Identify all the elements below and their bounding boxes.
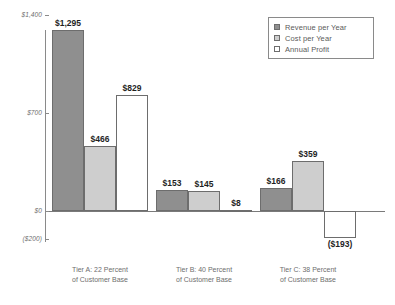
category-label-line: Tier C: 38 Percent	[253, 265, 363, 275]
y-tick-label: $1,400	[22, 11, 42, 18]
bar-profit-group-3	[324, 211, 356, 238]
bar-value-label: ($193)	[315, 239, 365, 249]
bar-revenue-group-2	[156, 190, 188, 211]
bar-revenue-group-3	[260, 188, 292, 211]
category-label-line: of Customer Base	[253, 275, 363, 285]
bar-revenue-group-1	[52, 30, 84, 211]
category-label-line: of Customer Base	[149, 275, 259, 285]
bar-value-label: $829	[107, 83, 157, 93]
legend-label-revenue: Revenue per Year	[285, 23, 347, 32]
category-label-line: Tier B: 40 Percent	[149, 265, 259, 275]
y-tick-label: ($200)	[23, 235, 42, 242]
bar-profit-group-1	[116, 95, 148, 211]
bar-value-label: $359	[283, 149, 333, 159]
bar-chart: $1,400$700$0($200) $1,295$466$829$153$14…	[0, 0, 395, 305]
legend-label-cost: Cost per Year	[285, 34, 332, 43]
category-label-1: Tier A: 22 Percentof Customer Base	[45, 265, 155, 285]
bar-cost-group-3	[292, 161, 324, 211]
legend-label-profit: Annual Profit	[285, 45, 329, 54]
chart-legend: Revenue per Year Cost per Year Annual Pr…	[268, 17, 374, 59]
legend-swatch-profit-icon	[274, 46, 280, 52]
bar-value-label: $145	[179, 179, 229, 189]
bar-value-label: $1,295	[43, 18, 93, 28]
category-label-2: Tier B: 40 Percentof Customer Base	[149, 265, 259, 285]
y-tick-label: $0	[35, 207, 42, 214]
category-label-3: Tier C: 38 Percentof Customer Base	[253, 265, 363, 285]
legend-item-revenue: Revenue per Year	[274, 22, 368, 32]
legend-item-cost: Cost per Year	[274, 33, 368, 43]
legend-swatch-revenue-icon	[274, 24, 280, 30]
category-label-line: Tier A: 22 Percent	[45, 265, 155, 275]
bar-value-label: $8	[211, 198, 261, 208]
legend-swatch-cost-icon	[274, 35, 280, 41]
y-tick-label: $700	[27, 109, 42, 116]
legend-item-profit: Annual Profit	[274, 44, 368, 54]
bar-profit-group-2	[220, 210, 252, 212]
category-label-line: of Customer Base	[45, 275, 155, 285]
bar-cost-group-1	[84, 146, 116, 211]
